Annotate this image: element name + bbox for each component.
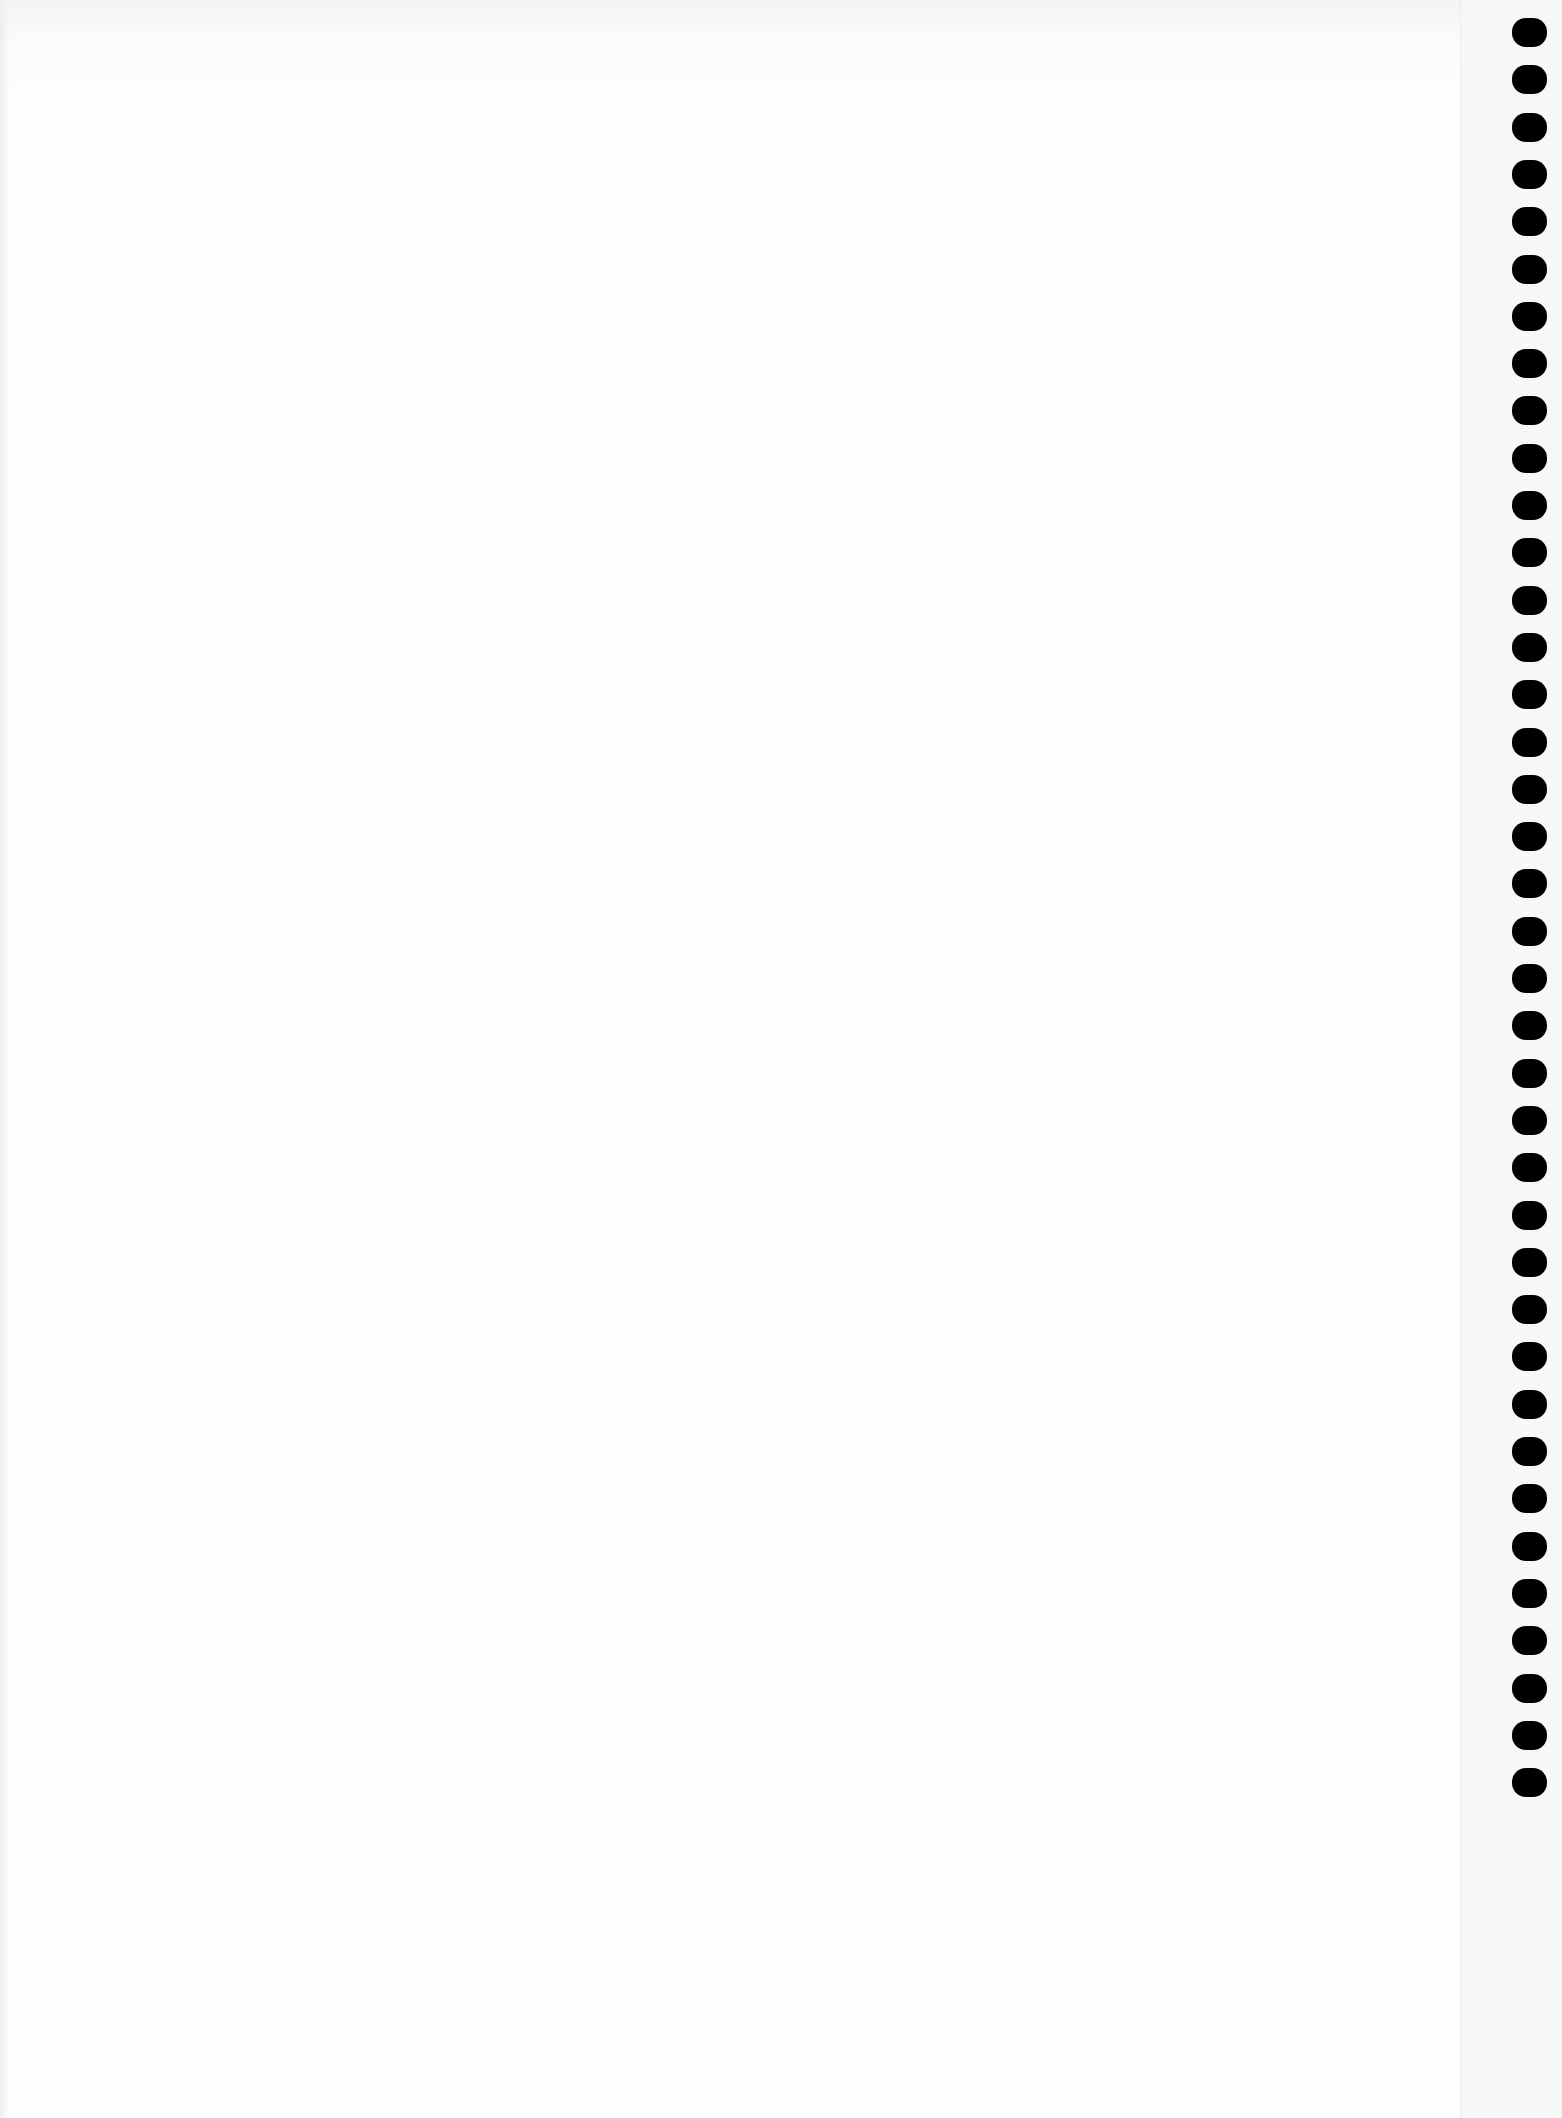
binding-hole — [1512, 1484, 1547, 1513]
binding-hole — [1512, 1059, 1547, 1088]
blank-page — [0, 0, 1562, 2118]
binding-hole — [1512, 1295, 1547, 1324]
scan-edge-shadow — [0, 0, 10, 2118]
binding-hole — [1512, 302, 1547, 331]
binding-hole — [1512, 491, 1547, 520]
binding-hole — [1512, 869, 1547, 898]
binding-hole — [1512, 1579, 1547, 1608]
binding-hole — [1512, 1674, 1547, 1703]
binding-hole — [1512, 633, 1547, 662]
binding-hole — [1512, 586, 1547, 615]
binding-hole — [1512, 917, 1547, 946]
binding-hole — [1512, 18, 1547, 47]
binding-hole — [1512, 65, 1547, 94]
binding-hole — [1512, 775, 1547, 804]
binding-hole — [1512, 255, 1547, 284]
binding-hole — [1512, 822, 1547, 851]
binding-hole — [1512, 680, 1547, 709]
binding-hole — [1512, 349, 1547, 378]
binding-hole — [1512, 1437, 1547, 1466]
binding-hole — [1512, 396, 1547, 425]
binding-hole — [1512, 1342, 1547, 1371]
binding-hole — [1512, 1106, 1547, 1135]
binding-hole — [1512, 113, 1547, 142]
binding-hole — [1512, 538, 1547, 567]
binding-hole — [1512, 728, 1547, 757]
binding-hole — [1512, 1153, 1547, 1182]
binding-hole — [1512, 1201, 1547, 1230]
binding-hole — [1512, 1011, 1547, 1040]
binding-hole — [1512, 207, 1547, 236]
perforation-line — [1460, 0, 1461, 2118]
binding-hole — [1512, 1768, 1547, 1797]
binding-hole — [1512, 160, 1547, 189]
binding-hole — [1512, 1626, 1547, 1655]
binding-hole — [1512, 964, 1547, 993]
binding-hole — [1512, 1248, 1547, 1277]
binding-hole — [1512, 444, 1547, 473]
binding-hole — [1512, 1532, 1547, 1561]
binding-hole — [1512, 1390, 1547, 1419]
binding-hole — [1512, 1721, 1547, 1750]
